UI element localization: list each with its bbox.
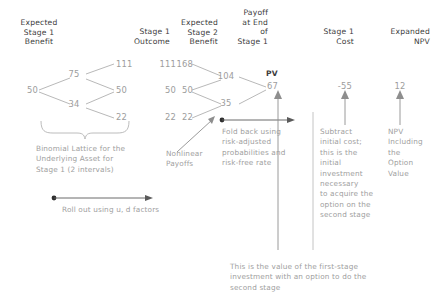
foldback-value-up: 104 (212, 72, 240, 81)
roll-out-arrow (52, 195, 153, 201)
lattice-brace (41, 121, 129, 139)
pv-label: PV (266, 69, 278, 78)
lattice-value-ud: 50 (116, 86, 127, 95)
cost-vertical-arrow (341, 90, 349, 125)
payoff-ud: 50 (165, 86, 193, 95)
note-fold-back: Fold back using risk-adjusted probabilit… (222, 127, 304, 169)
note-roll-out: Roll out using u, d factors (62, 205, 222, 215)
note-nonlinear-payoffs: Nonlinear Payoffs (166, 149, 222, 170)
pv-vertical-arrow (274, 90, 282, 250)
lattice-value-dd: 22 (116, 113, 127, 122)
stage1-cost-value: -55 (330, 82, 360, 91)
npv-vertical-arrow (396, 90, 404, 125)
lattice-value-down1: 34 (62, 100, 86, 109)
payoff-uu: 168 (165, 60, 193, 69)
fold-back-arrow (220, 117, 295, 123)
payoff-dd: 22 (165, 113, 193, 122)
note-binomial-lattice: Binomial Lattice for the Underlying Asse… (36, 144, 176, 175)
note-subtract-cost: Subtract initial cost; this is the initi… (320, 127, 382, 221)
lattice-value-uu: 111 (116, 60, 133, 69)
figure-canvas: Expected Stage 1 Benefit Stage 1 Outcome… (0, 0, 438, 308)
lattice-value-root: 50 (8, 86, 38, 95)
lattice-value-up1: 75 (62, 70, 86, 79)
expanded-npv-value: 12 (386, 82, 414, 91)
foldback-value-down: 35 (212, 99, 240, 108)
note-first-stage-value: This is the value of the first-stage inv… (230, 262, 430, 293)
pv-value: 67 (267, 82, 278, 91)
note-npv-including-option-value: NPV Including the Option Value (388, 127, 438, 179)
